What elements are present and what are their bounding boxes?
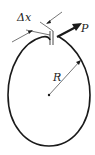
- ring-diagram: Δx P R: [0, 0, 95, 155]
- radius-label: R: [52, 71, 61, 84]
- force-arrow-shaft: [57, 27, 76, 37]
- ring-curve: [8, 36, 90, 146]
- delta-x-label: Δx: [16, 11, 32, 24]
- center-point: [48, 94, 50, 96]
- force-label: P: [80, 22, 89, 35]
- dim-line-top: [40, 22, 53, 31]
